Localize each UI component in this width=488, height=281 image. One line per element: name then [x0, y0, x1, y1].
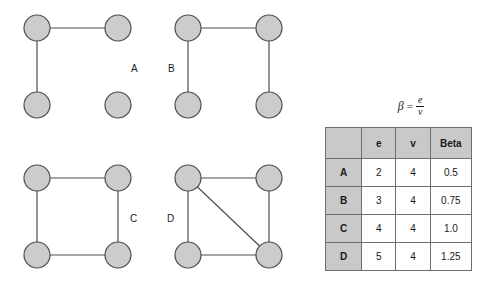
beta-table: e v Beta A 2 4 0.5 B 3 4 0.75 C 4 4	[325, 127, 472, 271]
row-label-a: A	[326, 159, 362, 187]
cell-c-v: 4	[396, 215, 430, 243]
table-row: B 3 4 0.75	[326, 187, 472, 215]
graph-node	[24, 92, 50, 118]
graph-label-c: C	[130, 214, 137, 224]
graph-diagram-d	[166, 160, 292, 273]
table-body: A 2 4 0.5 B 3 4 0.75 C 4 4 1.0 D 5 4 1	[326, 159, 472, 271]
fraction-numerator: e	[416, 95, 424, 107]
equals-sign: =	[407, 100, 413, 112]
graph-diagram-c	[15, 160, 141, 273]
cell-b-e: 3	[362, 187, 396, 215]
table-header-beta: Beta	[430, 128, 471, 159]
graph-label-d: D	[167, 214, 174, 224]
table-header: e v Beta	[326, 128, 472, 159]
cell-a-e: 2	[362, 159, 396, 187]
graph-node	[24, 165, 50, 191]
graph-node	[24, 242, 50, 268]
graph-node	[256, 15, 282, 41]
graph-edge	[188, 178, 269, 255]
graph-node	[256, 165, 282, 191]
graph-node	[175, 165, 201, 191]
graph-node	[175, 242, 201, 268]
graph-node	[175, 92, 201, 118]
graph-panel-b	[166, 10, 292, 123]
table-header-v: v	[396, 128, 430, 159]
graph-label-b: B	[168, 64, 175, 74]
graph-panel-d	[166, 160, 292, 273]
graph-node	[175, 15, 201, 41]
graph-node	[105, 92, 131, 118]
graph-diagram-a	[15, 10, 141, 123]
graph-node	[256, 92, 282, 118]
figure-canvas: A B C D β=ev e v Beta	[0, 0, 488, 281]
graph-label-a: A	[131, 64, 138, 74]
cell-c-beta: 1.0	[430, 215, 471, 243]
row-label-d: D	[326, 243, 362, 271]
beta-fraction: ev	[416, 95, 424, 117]
graph-node	[24, 15, 50, 41]
cell-d-e: 5	[362, 243, 396, 271]
graph-node	[105, 165, 131, 191]
graph-diagram-b	[166, 10, 292, 123]
beta-symbol: β	[398, 99, 404, 113]
table-header-corner	[326, 128, 362, 159]
table-row: C 4 4 1.0	[326, 215, 472, 243]
cell-c-e: 4	[362, 215, 396, 243]
cell-b-beta: 0.75	[430, 187, 471, 215]
row-label-b: B	[326, 187, 362, 215]
beta-formula: β=ev	[366, 96, 456, 118]
table-row: D 5 4 1.25	[326, 243, 472, 271]
fraction-denominator: v	[416, 107, 424, 118]
graph-node	[256, 242, 282, 268]
table-header-e: e	[362, 128, 396, 159]
table-header-row: e v Beta	[326, 128, 472, 159]
graph-panel-c	[15, 160, 141, 273]
graph-panel-a	[15, 10, 141, 123]
row-label-c: C	[326, 215, 362, 243]
table-row: A 2 4 0.5	[326, 159, 472, 187]
cell-b-v: 4	[396, 187, 430, 215]
cell-d-v: 4	[396, 243, 430, 271]
cell-a-beta: 0.5	[430, 159, 471, 187]
cell-d-beta: 1.25	[430, 243, 471, 271]
graph-node	[105, 15, 131, 41]
cell-a-v: 4	[396, 159, 430, 187]
graph-node	[105, 242, 131, 268]
